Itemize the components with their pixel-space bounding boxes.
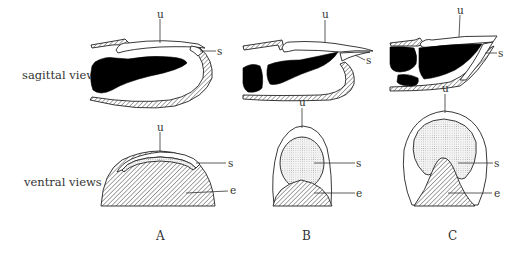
label-b-ventral-s: s [356,157,361,169]
row-label-ventral: ventral views [23,175,102,189]
label-a-ventral-u: u [157,121,164,133]
label-b-ventral-e: e [356,187,362,199]
column-label-c: C [448,229,457,243]
ventral-view-b: u s e [273,96,363,206]
label-c-ventral-s: s [494,157,499,169]
label-c-sagittal-s: s [498,47,503,59]
label-b-ventral-u: u [299,96,306,108]
claw-nail-diagram: sagittal views ventral views u s u s [0,0,523,253]
column-label-a: A [155,229,165,243]
sagittal-view-c: u s [390,4,503,91]
label-a-ventral-e: e [230,184,236,196]
column-label-b: B [302,229,311,243]
label-b-sagittal-s: s [366,54,371,66]
label-a-sagittal-u: u [157,8,164,20]
row-label-sagittal: sagittal views [22,68,102,82]
label-c-ventral-u: u [442,82,449,94]
ventral-view-c: u s e [403,82,500,206]
label-a-ventral-s: s [228,157,233,169]
sagittal-view-b: u s [243,8,373,101]
ventral-view-a: u s e [101,121,236,206]
label-c-ventral-e: e [494,187,500,199]
label-b-sagittal-u: u [322,8,329,20]
label-a-sagittal-s: s [217,45,222,57]
label-c-sagittal-u: u [457,4,464,16]
sagittal-view-a: u s [90,8,222,108]
